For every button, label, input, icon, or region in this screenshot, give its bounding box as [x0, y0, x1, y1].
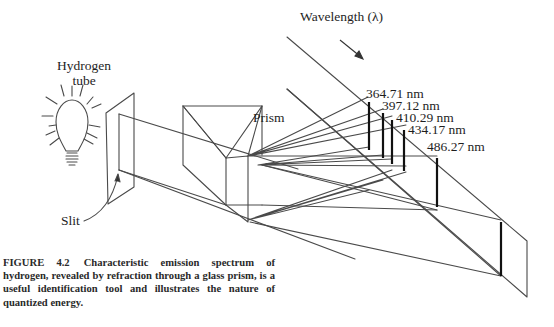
light-bulb-icon [42, 85, 101, 165]
prism [183, 106, 262, 222]
screen-plane [287, 37, 527, 297]
wavelength-label: Wavelength (λ) [300, 10, 383, 24]
hydrogen-tube-label: Hydrogen tube [57, 58, 111, 88]
figure-caption: FIGURE 4.2Characteristic emission spectr… [3, 256, 275, 309]
figure-number: FIGURE 4.2 [3, 257, 70, 268]
spectral-label-434: 434.17 nm [408, 123, 466, 137]
prism-label: Prism [253, 111, 285, 125]
slit-plate [106, 93, 134, 204]
figure-4-2: Hydrogen tube Prism Slit Wavelength (λ) … [0, 0, 554, 327]
slit-label: Slit [61, 214, 80, 228]
arrow-icon [340, 40, 363, 59]
spectral-label-486: 486.27 nm [427, 140, 485, 154]
